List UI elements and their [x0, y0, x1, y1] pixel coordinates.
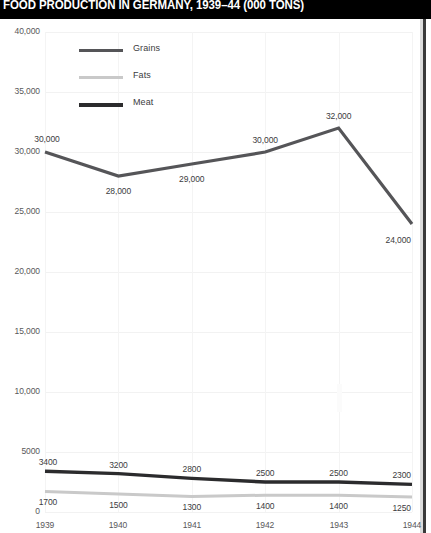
data-label-grains-1942: 30,000: [252, 135, 277, 145]
data-label-meat-1944: 2300: [392, 470, 411, 480]
series-line-fats: [45, 492, 412, 497]
data-label-grains-1944: 24,000: [386, 235, 411, 245]
data-label-grains-1941: 29,000: [179, 174, 204, 184]
title-bar: FOOD PRODUCTION IN GERMANY, 1939–44 (000…: [0, 0, 431, 19]
data-label-meat-1943: 2500: [329, 468, 348, 478]
data-label-fats-1943: 1400: [329, 501, 348, 511]
data-label-grains-1943: 32,000: [326, 111, 351, 121]
data-label-grains-1940: 28,000: [106, 186, 131, 196]
legend-label-fats: Fats: [133, 70, 151, 80]
series-line-meat: [45, 471, 412, 484]
data-label-fats-1941: 1300: [183, 502, 202, 512]
plot-area: 40,00035,00030,00025,00020,00015,00010,0…: [0, 19, 431, 533]
legend-swatch-meat: [79, 103, 123, 107]
data-label-fats-1940: 1500: [109, 500, 128, 510]
legend-swatch-fats: [79, 76, 123, 79]
legend-label-meat: Meat: [133, 97, 153, 107]
page-title: FOOD PRODUCTION IN GERMANY, 1939–44 (000…: [3, 0, 304, 15]
data-label-fats-1944: 1250: [392, 503, 411, 513]
data-label-meat-1939: 3400: [39, 457, 58, 467]
series-lines: [0, 19, 431, 533]
data-label-grains-1939: 30,000: [34, 134, 59, 144]
data-label-meat-1940: 3200: [109, 460, 128, 470]
legend-label-grains: Grains: [133, 43, 160, 53]
series-line-grains: [45, 128, 412, 224]
chart-page: FOOD PRODUCTION IN GERMANY, 1939–44 (000…: [0, 0, 431, 533]
data-label-fats-1939: 1700: [39, 497, 58, 507]
data-label-meat-1941: 2800: [183, 464, 202, 474]
data-label-fats-1942: 1400: [256, 501, 275, 511]
legend-swatch-grains: [79, 49, 123, 52]
data-label-meat-1942: 2500: [256, 468, 275, 478]
